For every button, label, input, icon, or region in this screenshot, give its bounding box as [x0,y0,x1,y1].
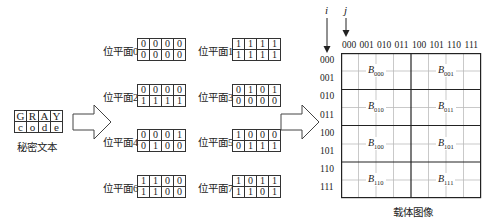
bit-plane-grid: 11001100 [137,175,186,198]
bit-cell: 1 [150,187,162,198]
bit-cell: 1 [269,39,281,50]
bit-cell: 0 [162,141,174,152]
bit-cell: 0 [174,85,186,96]
block-label: B110 [366,173,386,186]
bit-plane-row: 0000 [233,96,281,107]
bit-cell: 1 [245,187,257,198]
secret-row: c o d e [15,122,63,133]
block-subscript: 000 [374,70,384,77]
bit-plane-row: 0100 [138,141,186,152]
bit-cell: 0 [138,50,150,61]
bit-plane-grid: 01010000 [232,84,281,107]
bit-cell: 0 [174,39,186,50]
bit-cell: 1 [269,50,281,61]
block-label: B100 [366,137,386,150]
bit-cell: 1 [257,141,269,152]
bit-plane-row: 1111 [233,50,281,61]
bit-plane-label: 位平面2 [103,89,138,104]
row-label: 100 [320,128,334,138]
bit-cell: 0 [257,96,269,107]
bit-cell: 1 [257,50,269,61]
row-label: 000 [320,55,334,65]
carrier-image-caption: 载体图像 [393,204,433,219]
bit-cell: 0 [233,96,245,107]
bit-cell: 1 [257,176,269,187]
bit-cell: 0 [233,141,245,152]
block-label: B111 [436,173,455,186]
bit-cell: 1 [269,85,281,96]
bit-plane-row: 1111 [138,96,186,107]
bit-cell: 0 [138,85,150,96]
bit-cell: 0 [269,130,281,141]
column-label: 110 [447,40,461,50]
j-arrow-icon [341,18,351,38]
bit-plane-row: 0101 [233,85,281,96]
block-label: B010 [366,100,386,113]
bit-cell: 0 [138,141,150,152]
carrier-image-grid [341,53,482,199]
block-arrow-icon [280,104,320,140]
bit-cell: 0 [138,39,150,50]
bit-cell: 1 [162,96,174,107]
bit-plane-row: 1100 [138,187,186,198]
bit-cell: 1 [138,96,150,107]
secret-cell: d [39,122,51,133]
column-label: 010 [377,40,391,50]
bit-cell: 0 [174,187,186,198]
bit-cell: 0 [150,85,162,96]
column-label: 111 [465,40,479,50]
secret-cell: G [15,111,27,122]
column-label: 001 [360,40,374,50]
bit-cell: 0 [138,130,150,141]
bit-plane-label: 位平面5 [198,134,233,149]
bit-cell: 1 [233,130,245,141]
i-axis-label: i [325,4,328,16]
bit-cell: 0 [162,176,174,187]
bit-cell: 1 [269,176,281,187]
block-subscript: 101 [444,143,454,150]
row-label: 111 [320,182,334,192]
bit-plane-row: 1011 [233,176,281,187]
bit-cell: 0 [257,187,269,198]
secret-cell: c [15,122,27,133]
bit-cell: 1 [245,39,257,50]
bit-cell: 1 [233,50,245,61]
bit-cell: 1 [269,141,281,152]
bit-cell: 0 [257,130,269,141]
bit-cell: 0 [174,50,186,61]
secret-text-grid: G R A Y c o d e [14,110,63,133]
bit-cell: 1 [245,141,257,152]
bit-cell: 0 [162,50,174,61]
column-label: 000 [342,40,356,50]
secret-text-caption: 秘密文本 [17,139,57,154]
bit-plane-grid: 00001111 [137,84,186,107]
block-label: B101 [436,137,456,150]
bit-cell: 0 [162,39,174,50]
row-label: 001 [320,73,334,83]
block-subscript: 111 [444,179,453,186]
block-label: B000 [366,64,386,77]
bit-cell: 1 [245,85,257,96]
row-label: 110 [320,164,334,174]
bit-plane-row: 0001 [138,130,186,141]
bit-cell: 1 [150,176,162,187]
bit-plane-grid: 00010100 [137,129,186,152]
bit-plane-row: 0000 [138,50,186,61]
block-subscript: 100 [374,143,384,150]
secret-row: G R A Y [15,111,63,122]
bit-cell: 0 [233,85,245,96]
i-arrow-icon [322,18,332,54]
bit-cell: 0 [162,85,174,96]
bit-plane-label: 位平面7 [198,180,233,195]
bit-cell: 1 [138,187,150,198]
bit-cell: 1 [245,50,257,61]
bit-plane-label: 位平面4 [103,134,138,149]
bit-plane-label: 位平面1 [198,43,233,58]
bit-cell: 1 [233,39,245,50]
bit-plane-row: 0111 [233,141,281,152]
bit-cell: 1 [257,39,269,50]
bit-plane-label: 位平面6 [103,180,138,195]
bit-plane-grid: 11111111 [232,38,281,61]
bit-plane-grid: 10111101 [232,175,281,198]
bit-plane-row: 1111 [233,39,281,50]
